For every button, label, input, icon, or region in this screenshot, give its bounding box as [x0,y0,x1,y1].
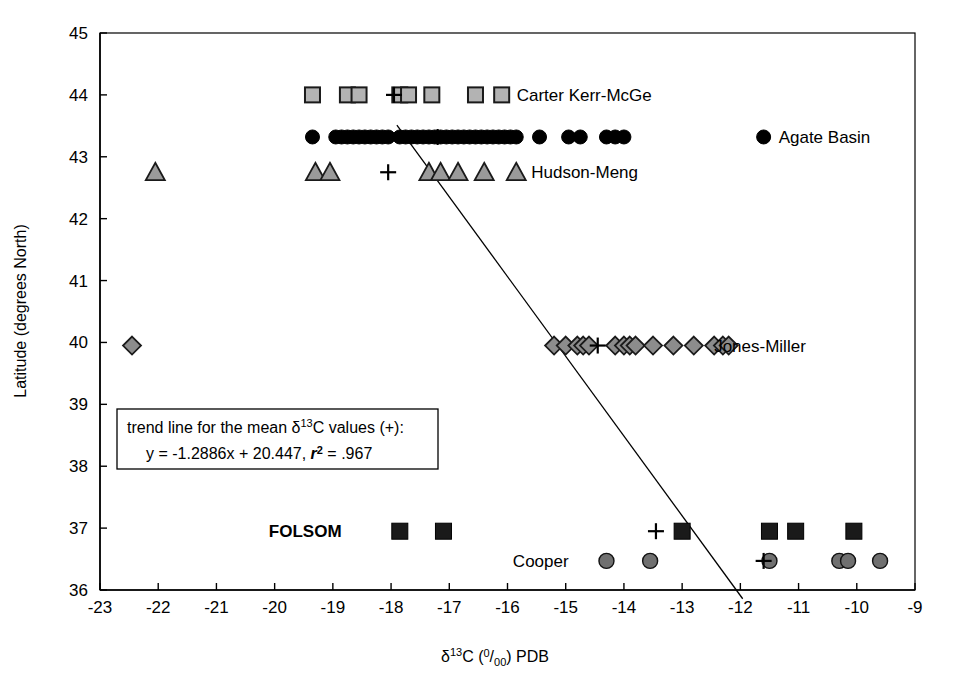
y-axis-ticks [100,33,107,590]
x-axis-ticks [100,583,915,590]
y-tick-label: 43 [69,148,88,167]
data-point-square [468,87,483,102]
data-point-square [788,523,804,539]
data-markers-layer [123,87,888,568]
x-tick-label: -15 [553,598,578,617]
x-tick-label: -14 [612,598,637,617]
x-axis-title: δ13C (0/00) PDB [441,646,549,668]
data-point-circle [757,130,771,144]
data-point-diamond [664,337,682,355]
mean-plus-marker [648,523,664,539]
series-3 [123,337,738,355]
data-point-triangle [146,163,165,180]
equation-text: y = -1.2886x + 20.447, [146,445,311,462]
x-tick-label: -11 [787,598,810,617]
data-point-square [305,87,320,102]
data-point-square [674,523,690,539]
y-tick-label: 40 [69,333,88,352]
annotation-line-2: y = -1.2886x + 20.447, r2 = .967 [146,444,372,462]
series-label: Cooper [513,552,569,571]
delta-superscript: 13 [450,646,462,658]
annotation-delta-glyph: δ [292,419,301,436]
delta-glyph: δ [441,648,450,665]
x-tick-label: -16 [495,598,520,617]
data-point-diamond [123,337,141,355]
x-tick-label: -20 [262,598,287,617]
annotation-line-1: trend line for the mean δ13C values (+): [127,417,404,436]
data-point-circle [643,553,658,568]
series-inline-labels: Carter Kerr-McGeAgate BasinHudson-MengJo… [269,86,870,571]
scatter-plot-figure: -23-22-21-20-19-18-17-16-15-14-13-12-11-… [0,0,960,692]
y-tick-label: 37 [69,519,88,538]
data-point-square [846,523,862,539]
data-point-square [435,523,451,539]
x-axis-tick-labels: -23-22-21-20-19-18-17-16-15-14-13-12-11-… [88,598,923,617]
series-1 [305,130,630,144]
y-tick-label: 36 [69,581,88,600]
data-point-circle [573,130,587,144]
data-point-diamond [685,337,703,355]
data-point-triangle [320,163,339,180]
series-label: Agate Basin [779,128,871,147]
data-point-square [401,87,416,102]
x-tick-label: -23 [88,598,113,617]
data-point-circle [533,130,547,144]
y-tick-label: 44 [69,86,88,105]
data-point-square [392,523,408,539]
x-tick-label: -10 [844,598,869,617]
series-5 [599,553,888,568]
mean-plus-marker [380,164,396,180]
series-label: Carter Kerr-McGe [517,86,652,105]
x-axis-title-tail2: ) PDB [506,648,549,665]
y-axis-title: Latitude (degrees North) [12,224,29,397]
data-point-circle [599,553,614,568]
x-tick-label: -18 [379,598,404,617]
chart-canvas: -23-22-21-20-19-18-17-16-15-14-13-12-11-… [0,0,960,692]
series-label: Hudson-Meng [531,163,638,182]
data-point-triangle [507,163,526,180]
x-tick-label: -12 [728,598,753,617]
x-tick-label: -22 [146,598,171,617]
data-point-square [352,87,367,102]
data-point-triangle [475,163,494,180]
y-tick-label: 45 [69,24,88,43]
series-label: Jones-Miller [714,337,806,356]
data-point-square [494,87,509,102]
x-tick-label: -17 [437,598,462,617]
r-squared-value: = .967 [323,445,372,462]
data-point-square [761,523,777,539]
y-tick-label: 38 [69,457,88,476]
annotation-line-1-prefix: trend line for the mean [127,419,292,436]
series-4 [392,523,862,539]
series-label: FOLSOM [269,522,342,541]
x-tick-label: -13 [670,598,695,617]
data-point-square [424,87,439,102]
y-tick-label: 42 [69,210,88,229]
series-2 [146,163,494,180]
data-point-diamond [644,337,662,355]
y-tick-label: 41 [69,272,88,291]
permil-denominator: 00 [494,656,506,668]
data-point-circle [305,130,319,144]
x-tick-label: -19 [321,598,346,617]
y-tick-label: 39 [69,395,88,414]
data-point-circle [509,130,523,144]
x-tick-label: -21 [204,598,229,617]
x-axis-title-tail: C ( [462,648,484,665]
x-tick-label: -9 [907,598,922,617]
annotation-line-1-suffix: C values (+): [313,419,404,436]
plot-area-frame [100,33,915,590]
data-point-circle [841,553,856,568]
data-point-circle [873,553,888,568]
y-axis-tick-labels: 36373839404142434445 [69,24,88,600]
annotation-delta-superscript: 13 [300,417,312,429]
data-point-triangle [449,163,468,180]
data-point-circle [617,130,631,144]
mean-plus-markers-layer [380,87,771,569]
